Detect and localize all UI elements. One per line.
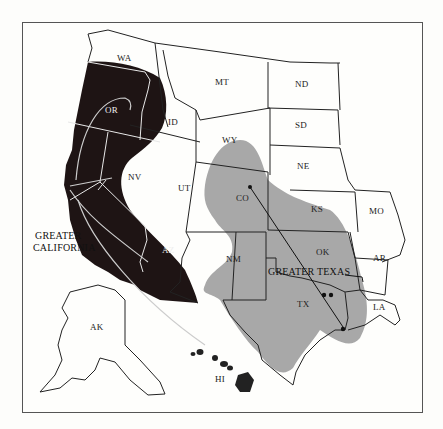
- label-hi: HI: [215, 374, 225, 384]
- label-ks: KS: [311, 204, 323, 214]
- alaska-shape: [40, 285, 165, 395]
- label-wa: WA: [117, 53, 132, 63]
- label-greater-california-1: GREATER: [35, 230, 81, 241]
- label-la: LA: [373, 302, 386, 312]
- label-greater-texas: GREATER TEXAS: [268, 266, 350, 277]
- label-greater-california-2: CALIFORNIA: [33, 242, 96, 253]
- label-az: AZ: [162, 245, 175, 255]
- hawaii-islands: [191, 349, 255, 392]
- label-tx: TX: [297, 299, 310, 309]
- label-nv: NV: [128, 172, 142, 182]
- label-co: CO: [236, 193, 249, 203]
- label-ne: NE: [297, 161, 310, 171]
- label-nd: ND: [295, 79, 309, 89]
- label-ut: UT: [178, 183, 191, 193]
- label-or: OR: [105, 105, 118, 115]
- label-nm: NM: [226, 254, 241, 264]
- label-id: ID: [168, 117, 178, 127]
- label-sd: SD: [295, 120, 307, 130]
- label-mt: MT: [215, 77, 229, 87]
- label-mo: MO: [369, 206, 384, 216]
- label-ak: AK: [90, 322, 104, 332]
- label-ok: OK: [316, 247, 330, 257]
- label-wy: WY: [222, 135, 238, 145]
- label-ar: AR: [373, 253, 386, 263]
